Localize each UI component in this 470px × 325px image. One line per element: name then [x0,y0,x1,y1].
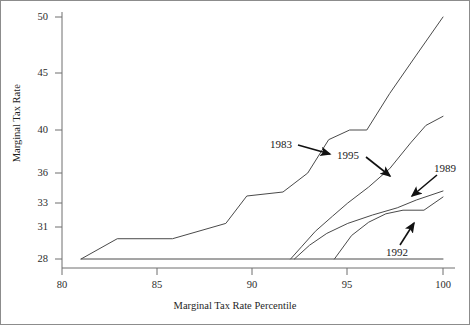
x-tick-label-95: 95 [331,280,363,291]
series-line-1983 [81,17,443,259]
y-axis-title: Marginal Tax Rate [12,80,23,166]
y-tick-label-40: 40 [28,125,48,136]
x-tick-label-90: 90 [236,280,268,291]
arrow-1989 [412,175,437,196]
series-label-1983: 1983 [270,139,292,150]
series-line-1989 [294,191,443,259]
x-tick-label-100: 100 [427,280,459,291]
chart-canvas [0,0,470,325]
x-tick-marks [62,268,443,275]
figure-border [1,1,470,325]
y-tick-label-33: 33 [28,198,48,209]
y-tick-label-50: 50 [28,12,48,23]
arrow-1995 [366,157,390,176]
series-label-1995: 1995 [337,150,359,161]
chart-figure: 50 45 40 36 33 31 28 80 85 90 95 100 Mar… [0,0,470,325]
x-tick-label-80: 80 [46,280,78,291]
x-tick-label-85: 85 [141,280,173,291]
series-line-1995 [291,116,443,259]
arrow-1983 [298,145,330,154]
x-axis-title: Marginal Tax Rate Percentile [0,301,470,312]
y-tick-label-28: 28 [28,254,48,265]
y-tick-marks [55,17,62,259]
y-tick-label-31: 31 [28,222,48,233]
data-series-group [81,17,443,259]
series-label-1992: 1992 [386,247,408,258]
series-label-1989: 1989 [434,163,456,174]
y-tick-label-45: 45 [28,68,48,79]
arrow-1992 [400,223,414,245]
y-tick-label-36: 36 [28,168,48,179]
annotation-arrows [298,145,437,245]
